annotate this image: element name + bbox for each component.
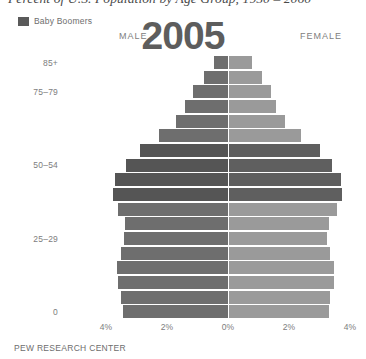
bar-male bbox=[118, 276, 228, 289]
center-axis-line bbox=[228, 56, 230, 320]
bar-female bbox=[228, 276, 334, 289]
y-axis-tick-label: 0 bbox=[14, 307, 58, 317]
bar-male bbox=[140, 144, 228, 157]
bar-male bbox=[125, 217, 228, 230]
x-axis-tick-label: 2% bbox=[147, 322, 187, 332]
bar-male bbox=[214, 56, 228, 69]
bar-female bbox=[228, 115, 285, 128]
bar-female bbox=[228, 159, 332, 172]
bar-female bbox=[228, 247, 330, 260]
population-pyramid-plot bbox=[106, 56, 350, 320]
bar-female bbox=[228, 129, 301, 142]
y-axis-tick-label: 25–29 bbox=[14, 234, 58, 244]
bar-male bbox=[115, 173, 228, 186]
bar-male bbox=[185, 100, 228, 113]
bar-female bbox=[228, 305, 329, 318]
bar-male bbox=[118, 203, 228, 216]
x-axis-tick-label: 4% bbox=[86, 322, 126, 332]
bar-female bbox=[228, 144, 320, 157]
y-axis-tick-label: 75–79 bbox=[14, 87, 58, 97]
bar-male bbox=[123, 305, 228, 318]
bar-male bbox=[193, 85, 228, 98]
bar-female bbox=[228, 261, 334, 274]
bar-female bbox=[228, 217, 329, 230]
bar-male bbox=[121, 291, 228, 304]
bar-male bbox=[113, 188, 228, 201]
bar-female bbox=[228, 173, 341, 186]
bar-male bbox=[176, 115, 228, 128]
y-axis: 025–2950–5475–7985+ bbox=[14, 56, 58, 320]
source-attribution: PEW RESEARCH CENTER bbox=[14, 343, 126, 353]
bar-female bbox=[228, 56, 252, 69]
bar-male bbox=[126, 159, 228, 172]
bar-female bbox=[228, 232, 327, 245]
male-side-label: MALE bbox=[119, 31, 148, 41]
bar-female bbox=[228, 100, 276, 113]
bar-female bbox=[228, 85, 271, 98]
x-axis-tick-label: 4% bbox=[330, 322, 366, 332]
bar-female bbox=[228, 291, 330, 304]
bar-male bbox=[121, 247, 228, 260]
bar-male bbox=[204, 71, 228, 84]
bar-female bbox=[228, 188, 342, 201]
page-title: Percent of U.S. Population by Age Group,… bbox=[8, 0, 360, 7]
bar-male bbox=[117, 261, 228, 274]
female-side-label: FEMALE bbox=[300, 31, 342, 41]
x-axis-tick-label: 2% bbox=[269, 322, 309, 332]
bar-female bbox=[228, 71, 262, 84]
x-axis: 4%2%0%2%4% bbox=[0, 322, 366, 336]
bar-female bbox=[228, 203, 337, 216]
y-axis-tick-label: 50–54 bbox=[14, 160, 58, 170]
bar-male bbox=[124, 232, 228, 245]
y-axis-tick-label: 85+ bbox=[14, 58, 58, 68]
bar-male bbox=[159, 129, 228, 142]
x-axis-tick-label: 0% bbox=[208, 322, 248, 332]
